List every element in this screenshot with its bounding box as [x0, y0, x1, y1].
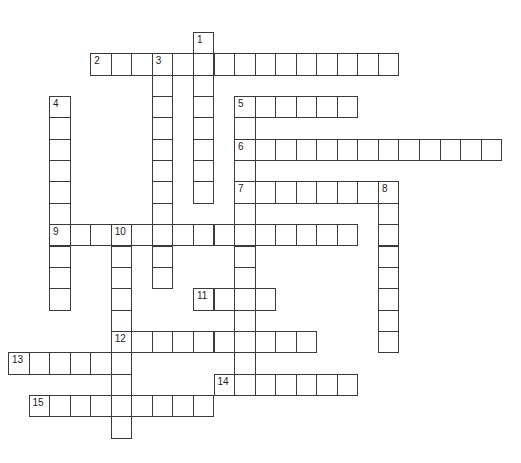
crossword-cell[interactable]: [337, 53, 359, 75]
crossword-cell[interactable]: [131, 395, 153, 417]
crossword-cell[interactable]: 1: [193, 32, 215, 54]
crossword-cell[interactable]: [152, 267, 174, 289]
crossword-cell[interactable]: 12: [111, 331, 133, 353]
crossword-cell[interactable]: [234, 246, 256, 268]
crossword-cell[interactable]: [316, 181, 338, 203]
crossword-cell[interactable]: [193, 181, 215, 203]
crossword-cell[interactable]: [255, 139, 277, 161]
crossword-cell[interactable]: [172, 53, 194, 75]
crossword-cell[interactable]: [378, 267, 400, 289]
crossword-cell[interactable]: 5: [234, 96, 256, 118]
crossword-cell[interactable]: [152, 139, 174, 161]
crossword-cell[interactable]: [70, 224, 92, 246]
crossword-cell[interactable]: [172, 331, 194, 353]
crossword-cell[interactable]: [234, 331, 256, 353]
crossword-cell[interactable]: [275, 139, 297, 161]
crossword-cell[interactable]: 11: [193, 288, 215, 310]
crossword-cell[interactable]: [296, 374, 318, 396]
crossword-cell[interactable]: [111, 53, 133, 75]
crossword-cell[interactable]: [234, 288, 256, 310]
crossword-cell[interactable]: [70, 395, 92, 417]
crossword-cell[interactable]: [275, 374, 297, 396]
crossword-cell[interactable]: [193, 331, 215, 353]
crossword-cell[interactable]: 13: [8, 352, 30, 374]
crossword-cell[interactable]: [111, 267, 133, 289]
crossword-cell[interactable]: [193, 395, 215, 417]
crossword-cell[interactable]: [316, 139, 338, 161]
crossword-cell[interactable]: [193, 96, 215, 118]
crossword-cell[interactable]: [49, 288, 71, 310]
crossword-cell[interactable]: [460, 139, 482, 161]
crossword-cell[interactable]: [234, 203, 256, 225]
crossword-cell[interactable]: [152, 96, 174, 118]
crossword-cell[interactable]: [131, 224, 153, 246]
crossword-cell[interactable]: [111, 352, 133, 374]
crossword-cell[interactable]: [111, 310, 133, 332]
crossword-cell[interactable]: [378, 288, 400, 310]
crossword-cell[interactable]: [255, 181, 277, 203]
crossword-cell[interactable]: [111, 246, 133, 268]
crossword-cell[interactable]: [337, 139, 359, 161]
crossword-cell[interactable]: [49, 160, 71, 182]
crossword-cell[interactable]: [152, 160, 174, 182]
crossword-cell[interactable]: [152, 246, 174, 268]
crossword-cell[interactable]: [440, 139, 462, 161]
crossword-cell[interactable]: [90, 224, 112, 246]
crossword-cell[interactable]: [193, 160, 215, 182]
crossword-cell[interactable]: [172, 395, 194, 417]
crossword-cell[interactable]: [255, 331, 277, 353]
crossword-cell[interactable]: [337, 96, 359, 118]
crossword-cell[interactable]: [378, 53, 400, 75]
crossword-cell[interactable]: 14: [214, 374, 236, 396]
crossword-cell[interactable]: [357, 139, 379, 161]
crossword-cell[interactable]: 8: [378, 181, 400, 203]
crossword-cell[interactable]: [255, 53, 277, 75]
crossword-cell[interactable]: [275, 181, 297, 203]
crossword-cell[interactable]: [357, 181, 379, 203]
crossword-cell[interactable]: [275, 53, 297, 75]
crossword-cell[interactable]: [49, 267, 71, 289]
crossword-cell[interactable]: [49, 203, 71, 225]
crossword-cell[interactable]: [419, 139, 441, 161]
crossword-cell[interactable]: [152, 181, 174, 203]
crossword-cell[interactable]: [152, 395, 174, 417]
crossword-cell[interactable]: [214, 224, 236, 246]
crossword-cell[interactable]: [90, 352, 112, 374]
crossword-cell[interactable]: [214, 288, 236, 310]
crossword-cell[interactable]: [378, 224, 400, 246]
crossword-cell[interactable]: [172, 224, 194, 246]
crossword-cell[interactable]: [296, 96, 318, 118]
crossword-cell[interactable]: [378, 331, 400, 353]
crossword-cell[interactable]: [481, 139, 503, 161]
crossword-cell[interactable]: [152, 224, 174, 246]
crossword-cell[interactable]: [255, 96, 277, 118]
crossword-cell[interactable]: [316, 374, 338, 396]
crossword-cell[interactable]: [337, 374, 359, 396]
crossword-cell[interactable]: [316, 53, 338, 75]
crossword-cell[interactable]: [275, 224, 297, 246]
crossword-cell[interactable]: 10: [111, 224, 133, 246]
crossword-cell[interactable]: [316, 96, 338, 118]
crossword-cell[interactable]: [275, 331, 297, 353]
crossword-cell[interactable]: [255, 374, 277, 396]
crossword-cell[interactable]: [234, 160, 256, 182]
crossword-cell[interactable]: [234, 374, 256, 396]
crossword-cell[interactable]: [234, 224, 256, 246]
crossword-cell[interactable]: 6: [234, 139, 256, 161]
crossword-cell[interactable]: [234, 352, 256, 374]
crossword-cell[interactable]: [234, 117, 256, 139]
crossword-cell[interactable]: [49, 395, 71, 417]
crossword-cell[interactable]: [193, 117, 215, 139]
crossword-cell[interactable]: [90, 395, 112, 417]
crossword-cell[interactable]: 15: [29, 395, 51, 417]
crossword-cell[interactable]: [49, 352, 71, 374]
crossword-cell[interactable]: [111, 288, 133, 310]
crossword-cell[interactable]: [193, 53, 215, 75]
crossword-cell[interactable]: [111, 395, 133, 417]
crossword-cell[interactable]: 2: [90, 53, 112, 75]
crossword-cell[interactable]: [337, 181, 359, 203]
crossword-cell[interactable]: [378, 139, 400, 161]
crossword-cell[interactable]: 7: [234, 181, 256, 203]
crossword-cell[interactable]: [316, 224, 338, 246]
crossword-cell[interactable]: [152, 331, 174, 353]
